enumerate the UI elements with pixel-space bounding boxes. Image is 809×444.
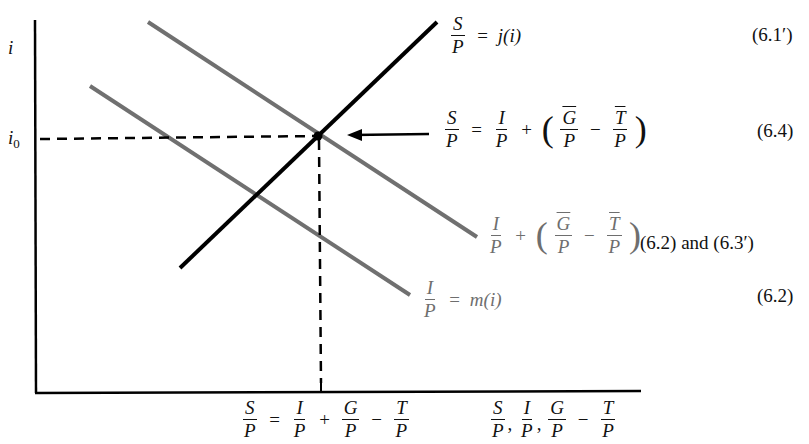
investment-curve [90, 86, 410, 295]
minus: − [590, 119, 601, 140]
equals: = [269, 409, 280, 430]
s-over-p: SP [490, 398, 506, 441]
i-over-p: IP [494, 108, 510, 151]
x-axis [35, 391, 641, 393]
investment-plus-deficit-label: IP + ( GP − TP ) [486, 214, 641, 257]
equilibrium-arrow-shaft [352, 134, 429, 135]
equilibrium-condition-label: SP = IP + ( GP − TP ) [442, 108, 647, 151]
g-over-p: GP [548, 398, 566, 441]
equals: = [477, 25, 488, 46]
eqref-inv-plus-deficit: (6.2) and (6.3′) [640, 232, 754, 254]
i0-label: i0 [8, 128, 20, 150]
equilibrium-dashed-line [319, 140, 321, 383]
minus: − [584, 225, 595, 246]
y-axis [35, 20, 36, 393]
equals: = [471, 119, 482, 140]
investment-plus-deficit-curve [148, 22, 477, 237]
plus: + [319, 409, 330, 430]
j-of-i: j(i) [498, 25, 521, 46]
m-of-i: m(i) [470, 289, 502, 310]
gbar-over-p: GP [555, 214, 573, 257]
x-axis-label: SP, IP, GP − TP [488, 398, 618, 441]
investment-curve-label: IP = m(i) [420, 278, 501, 321]
t-over-p: TP [600, 398, 616, 441]
equilibrium-diagram [0, 0, 809, 444]
i-over-p: IP [422, 278, 438, 321]
t-over-p: TP [394, 398, 410, 441]
equilibrium-x-label: SP = IP + GP − TP [240, 398, 411, 441]
tbar-over-p: TP [612, 108, 628, 151]
g-over-p: GP [342, 398, 360, 441]
plus: + [515, 225, 526, 246]
eqref-equilibrium: (6.4) [757, 120, 793, 142]
s-over-p: SP [444, 108, 460, 151]
tbar-over-p: TP [607, 214, 623, 257]
comma: , [537, 413, 542, 434]
eqref-investment: (6.2) [757, 285, 793, 307]
plus: + [521, 119, 532, 140]
i-over-p: IP [488, 214, 504, 257]
s-over-p: SP [450, 14, 466, 57]
saving-curve [180, 22, 437, 268]
i-over-p: IP [292, 398, 308, 441]
minus: − [371, 409, 382, 430]
gbar-over-p: GP [560, 108, 578, 151]
lparen: ( [542, 109, 554, 149]
comma: , [508, 413, 513, 434]
s-over-p: SP [242, 398, 258, 441]
i-over-p: IP [519, 398, 535, 441]
minus: − [578, 409, 589, 430]
i0-subscript: 0 [13, 136, 20, 151]
lparen: ( [536, 215, 548, 255]
i0-dashed-line [40, 136, 318, 139]
eqref-saving: (6.1′) [752, 24, 793, 46]
equilibrium-point [314, 132, 323, 141]
y-axis-label: i [8, 38, 13, 57]
arrow-icon [347, 129, 362, 141]
saving-curve-label: SP = j(i) [448, 14, 521, 57]
rparen: ) [635, 109, 647, 149]
equals: = [449, 289, 460, 310]
